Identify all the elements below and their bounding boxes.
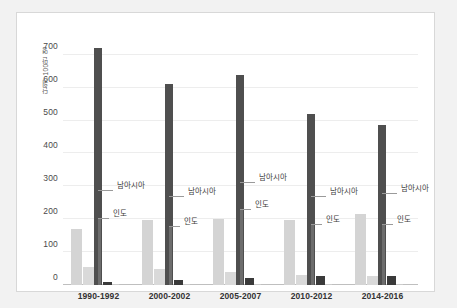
bar	[225, 272, 236, 285]
annotation-south-asia: 남아시아	[117, 179, 145, 190]
annotation-leader-line	[311, 196, 326, 197]
y-axis-title: 단위: 100만 명	[41, 47, 51, 94]
x-tick-label: 1990-1992	[78, 291, 120, 301]
annotation-south-asia: 남아시아	[401, 181, 429, 192]
bar	[83, 267, 94, 285]
annotation-south-asia: 남아시아	[330, 184, 358, 195]
bar	[103, 282, 112, 285]
annotation-leader-line	[98, 190, 113, 191]
annotation-leader-line	[169, 196, 184, 197]
bar	[240, 209, 243, 285]
y-tick-label: 400	[43, 141, 58, 150]
y-tick-label: 700	[43, 42, 58, 51]
plot-area: 0100200300400500600700 1990-19922000-200…	[63, 35, 418, 285]
bar	[296, 275, 307, 285]
bar	[325, 284, 332, 285]
bar	[382, 224, 385, 285]
annotation-south-asia: 남아시아	[188, 184, 216, 195]
bar	[213, 219, 224, 285]
annotation-india: 인도	[326, 213, 340, 224]
x-tick-label: 2014-2016	[362, 291, 404, 301]
bar	[245, 278, 254, 285]
x-tick-label: 2000-2002	[149, 291, 191, 301]
bar	[142, 220, 153, 285]
bar	[355, 214, 366, 285]
bar-group: 2014-2016	[347, 35, 418, 285]
chart-panel: 단위: 100만 명 0100200300400500600700 1990-1…	[16, 12, 435, 292]
y-tick-label: 500	[43, 108, 58, 117]
bar-group: 2005-2007	[205, 35, 276, 285]
annotation-leader-line	[169, 226, 180, 227]
x-tick-label: 2005-2007	[220, 291, 262, 301]
y-tick-label: 100	[43, 239, 58, 248]
annotation-leader-line	[98, 218, 109, 219]
bar	[98, 218, 101, 285]
bar	[367, 276, 378, 285]
annotation-india: 인도	[397, 213, 411, 224]
bar	[387, 276, 396, 285]
y-tick-label: 300	[43, 174, 58, 183]
annotation-leader-line	[240, 209, 251, 210]
annotation-south-asia: 남아시아	[259, 170, 287, 181]
bar	[311, 224, 314, 285]
annotation-india: 인도	[113, 206, 127, 217]
bar	[154, 269, 165, 285]
bar	[254, 284, 261, 285]
annotation-leader-line	[382, 224, 393, 225]
bar	[174, 280, 183, 285]
bar	[183, 284, 190, 285]
bar-group: 2010-2012	[276, 35, 347, 285]
annotation-india: 인도	[255, 198, 269, 209]
bar	[112, 284, 119, 285]
annotation-leader-line	[311, 224, 322, 225]
bar	[169, 226, 172, 285]
bar	[316, 276, 325, 285]
bar	[396, 284, 403, 285]
y-tick-label: 0	[53, 272, 58, 281]
annotation-leader-line	[382, 193, 397, 194]
annotation-leader-line	[240, 182, 255, 183]
x-tick-label: 2010-2012	[291, 291, 333, 301]
y-tick-label: 200	[43, 206, 58, 215]
annotation-india: 인도	[184, 214, 198, 225]
bar-group: 1990-1992	[63, 35, 134, 285]
bar-group: 2000-2002	[134, 35, 205, 285]
bar	[71, 229, 82, 285]
y-tick-label: 600	[43, 75, 58, 84]
bar	[284, 220, 295, 285]
